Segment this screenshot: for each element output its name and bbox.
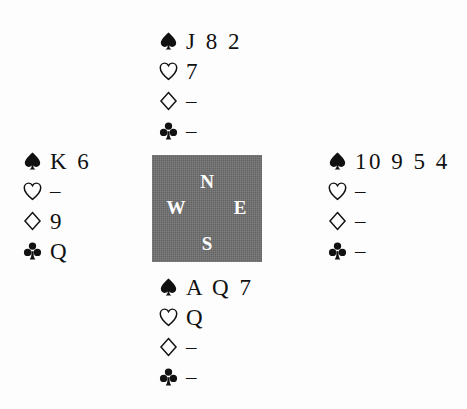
hand-west: K 6 – 9 [22,146,91,266]
hand-south: A Q 7 Q – [158,272,253,392]
hand-east-hearts: – [351,181,366,202]
club-icon [158,366,182,388]
hand-east-spades-row: 10 9 5 4 [327,146,450,176]
hand-south-diamonds-row: – [158,332,253,362]
hand-south-spades: A Q 7 [182,276,253,299]
hand-south-diamonds: – [182,337,197,358]
hand-west-hearts-row: – [22,176,91,206]
hand-west-diamonds: 9 [46,210,64,233]
club-icon [327,240,351,262]
diamond-icon [327,210,351,232]
hand-north-clubs: – [182,121,197,142]
hand-west-spades: K 6 [46,150,91,173]
compass-label-south: S [202,234,213,253]
hand-east-clubs-row: – [327,236,450,266]
bridge-hand-diagram: J 8 2 7 – [0,0,467,409]
hand-south-clubs-row: – [158,362,253,392]
diamond-icon [158,90,182,112]
hand-south-hearts-row: Q [158,302,253,332]
hand-north-hearts-row: 7 [158,56,242,86]
compass-label-east: E [234,198,247,217]
heart-icon [158,60,182,82]
club-icon [158,120,182,142]
compass-label-west: W [167,198,186,217]
hand-south-spades-row: A Q 7 [158,272,253,302]
diamond-icon [158,336,182,358]
club-icon [22,240,46,262]
hand-west-spades-row: K 6 [22,146,91,176]
hand-north-hearts: 7 [182,60,200,83]
spade-icon [158,276,182,298]
hand-north: J 8 2 7 – [158,26,242,146]
hand-east-clubs: – [351,241,366,262]
hand-north-clubs-row: – [158,116,242,146]
heart-icon [158,306,182,328]
hand-east-hearts-row: – [327,176,450,206]
compass-label-north: N [200,172,214,191]
hand-south-hearts: Q [182,306,205,329]
hand-east-diamonds: – [351,211,366,232]
spade-icon [327,150,351,172]
compass-box: N W E S [152,155,262,262]
diamond-icon [22,210,46,232]
hand-west-diamonds-row: 9 [22,206,91,236]
hand-west-hearts: – [46,181,61,202]
hand-south-clubs: – [182,367,197,388]
spade-icon [158,30,182,52]
hand-west-clubs-row: Q [22,236,91,266]
heart-icon [327,180,351,202]
hand-east-diamonds-row: – [327,206,450,236]
hand-west-clubs: Q [46,240,69,263]
hand-north-spades: J 8 2 [182,30,242,53]
hand-north-spades-row: J 8 2 [158,26,242,56]
hand-north-diamonds-row: – [158,86,242,116]
hand-north-diamonds: – [182,91,197,112]
heart-icon [22,180,46,202]
spade-icon [22,150,46,172]
hand-east-spades: 10 9 5 4 [351,150,450,173]
hand-east: 10 9 5 4 – – [327,146,450,266]
